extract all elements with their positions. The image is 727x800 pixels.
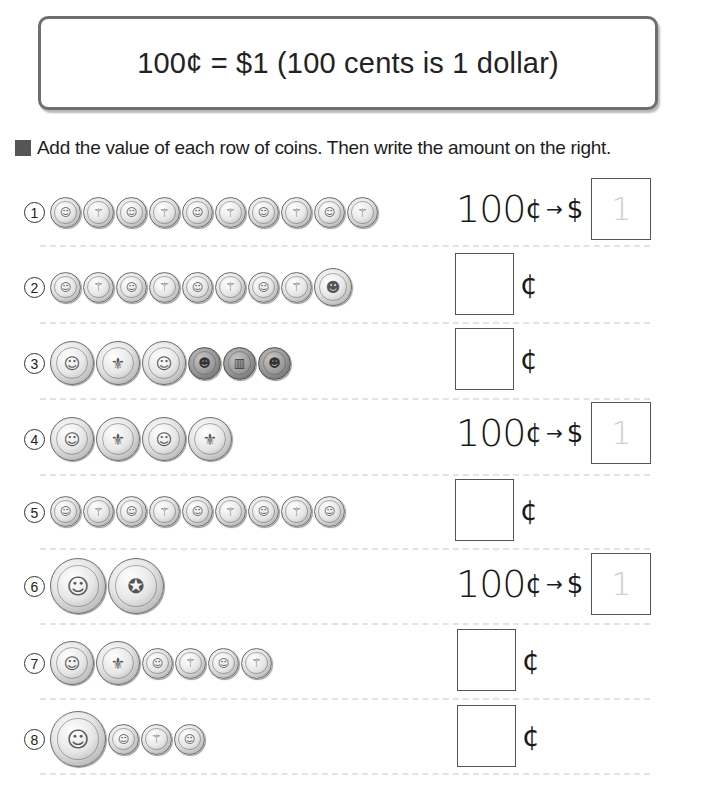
quarter-tails-icon: ⚜ (188, 417, 232, 461)
half-dollar-tails-icon: ✪ (108, 558, 164, 614)
answer-box[interactable] (455, 253, 514, 315)
coin-group: ☺ ⚜ ☺ ☻ ▥ ☻ (50, 341, 291, 385)
problem-number: 5 (24, 502, 45, 523)
dime-tails-icon: ⚚ (149, 496, 180, 527)
problem-row-3: 3 ☺ ⚜ ☺ ☻ ▥ ☻ ¢ (0, 326, 727, 402)
problem-number: 1 (24, 202, 45, 223)
answer-box[interactable] (457, 629, 516, 691)
dime-heads-icon: ☺ (208, 648, 239, 679)
cent-answer: ¢ (457, 705, 540, 767)
dime-tails-icon: ⚚ (347, 197, 378, 228)
row-divider (40, 245, 650, 247)
cent-sign: ¢ (526, 418, 543, 448)
arrow-right-icon: → (546, 572, 563, 596)
square-bullet-icon (15, 140, 31, 156)
penny-heads-icon: ☻ (188, 347, 221, 380)
dime-tails-icon: ⚚ (141, 724, 172, 755)
dime-tails-icon: ⚚ (149, 272, 180, 303)
cent-answer: ¢ (455, 328, 538, 390)
hundred-label: 100 (456, 562, 526, 606)
answer-box[interactable] (455, 328, 514, 390)
row-divider (40, 773, 650, 775)
row-divider (40, 474, 650, 476)
coin-group: ☺ ☺ ⚚ ☺ (50, 711, 205, 767)
coin-group: ☺ ⚚ ☺ ⚚ ☺ ⚚ ☺ ⚚ ☺ ⚚ (50, 197, 378, 228)
cent-sign: ¢ (522, 720, 540, 753)
hundred-label: 100 (456, 411, 526, 455)
quarter-heads-icon: ☺ (50, 417, 94, 461)
dollar-conversion: 100 ¢ → $ 1 (456, 178, 651, 240)
answer-box[interactable] (457, 705, 516, 767)
answer-hint: 1 (611, 414, 631, 452)
problem-number: 7 (24, 653, 45, 674)
dime-tails-icon: ⚚ (83, 496, 114, 527)
dime-tails-icon: ⚚ (149, 197, 180, 228)
coin-group: ☺ ⚚ ☺ ⚚ ☺ ⚚ ☺ ⚚ ☻ (50, 268, 352, 306)
answer-box[interactable]: 1 (591, 402, 651, 464)
dime-heads-icon: ☺ (182, 272, 213, 303)
dollar-sign: $ (567, 418, 584, 448)
dime-tails-icon: ⚚ (215, 272, 246, 303)
dime-heads-icon: ☺ (314, 496, 345, 527)
hundred-label: 100 (456, 187, 526, 231)
dime-tails-icon: ⚚ (281, 197, 312, 228)
cent-sign: ¢ (520, 268, 538, 301)
dime-heads-icon: ☺ (182, 197, 213, 228)
cent-answer: ¢ (455, 253, 538, 315)
dime-heads-icon: ☺ (108, 724, 139, 755)
answer-hint: 1 (611, 190, 631, 228)
rule-text: 100¢ = $1 (100 cents is 1 dollar) (137, 47, 559, 80)
problem-number: 6 (24, 576, 45, 597)
coin-group: ☺ ⚜ ☺ ⚚ ☺ ⚚ (50, 641, 272, 685)
problem-row-1: 1 ☺ ⚚ ☺ ⚚ ☺ ⚚ ☺ ⚚ ☺ ⚚ 100 ¢ → $ 1 (0, 175, 727, 251)
answer-box[interactable] (455, 479, 514, 541)
dollar-sign: $ (567, 194, 584, 224)
quarter-tails-icon: ⚜ (96, 417, 140, 461)
dime-heads-icon: ☺ (50, 272, 81, 303)
rule-box: 100¢ = $1 (100 cents is 1 dollar) (38, 16, 658, 110)
problem-number: 8 (24, 729, 45, 750)
answer-box[interactable]: 1 (591, 178, 651, 240)
dime-tails-icon: ⚚ (175, 648, 206, 679)
instruction: Add the value of each row of coins. Then… (15, 137, 611, 159)
cent-sign: ¢ (522, 644, 540, 677)
problem-row-4: 4 ☺ ⚜ ☺ ⚜ 100 ¢ → $ 1 (0, 402, 727, 478)
dime-heads-icon: ☺ (116, 496, 147, 527)
row-divider (40, 698, 650, 700)
quarter-heads-icon: ☺ (142, 341, 186, 385)
quarter-heads-icon: ☺ (50, 641, 94, 685)
coin-group: ☺ ✪ (50, 558, 164, 614)
problem-number: 3 (24, 353, 45, 374)
penny-heads-icon: ☻ (258, 347, 291, 380)
dollar-conversion: 100 ¢ → $ 1 (456, 402, 651, 464)
instruction-text: Add the value of each row of coins. Then… (37, 137, 611, 159)
answer-box[interactable]: 1 (591, 553, 651, 615)
quarter-tails-icon: ⚜ (96, 641, 140, 685)
row-divider (40, 548, 650, 550)
dime-tails-icon: ⚚ (83, 197, 114, 228)
cent-answer: ¢ (455, 479, 538, 541)
dollar-conversion: 100 ¢ → $ 1 (456, 553, 651, 615)
dime-heads-icon: ☺ (50, 197, 81, 228)
dime-heads-icon: ☺ (248, 272, 279, 303)
cent-sign: ¢ (520, 494, 538, 527)
dime-heads-icon: ☺ (248, 496, 279, 527)
cent-sign: ¢ (520, 343, 538, 376)
problem-number: 4 (24, 429, 45, 450)
quarter-heads-icon: ☺ (50, 341, 94, 385)
dime-tails-icon: ⚚ (281, 496, 312, 527)
problem-row-5: 5 ☺ ⚚ ☺ ⚚ ☺ ⚚ ☺ ⚚ ☺ ¢ (0, 478, 727, 554)
arrow-right-icon: → (546, 197, 563, 221)
problem-row-7: 7 ☺ ⚜ ☺ ⚚ ☺ ⚚ ¢ (0, 628, 727, 704)
quarter-heads-icon: ☺ (142, 417, 186, 461)
dime-heads-icon: ☺ (182, 496, 213, 527)
dime-heads-icon: ☺ (50, 496, 81, 527)
problem-number: 2 (24, 277, 45, 298)
dime-tails-icon: ⚚ (215, 496, 246, 527)
dime-heads-icon: ☺ (116, 272, 147, 303)
penny-tails-icon: ▥ (223, 347, 256, 380)
row-divider (40, 322, 650, 324)
dime-tails-icon: ⚚ (281, 272, 312, 303)
dime-heads-icon: ☺ (142, 648, 173, 679)
row-divider (40, 398, 650, 400)
